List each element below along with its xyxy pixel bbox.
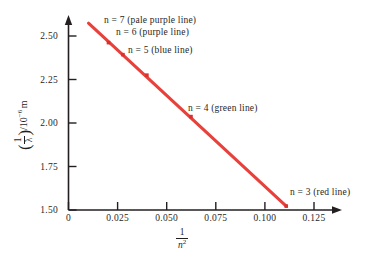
x-tick-label-0050: 0.050 (148, 213, 186, 223)
y-title-fraction: 1λ (14, 136, 35, 145)
y-axis-ticks (69, 36, 77, 210)
y-tick-label-250: 2.50 (22, 31, 58, 41)
annotation-n5: n = 5 (blue line) (128, 45, 193, 55)
y-axis (65, 15, 72, 210)
x-tick-label-0: 0 (55, 213, 83, 223)
y-axis-title: (1λ)/10−6m (14, 100, 35, 150)
y-title-unit: m (18, 100, 29, 108)
x-tick-label-0075: 0.075 (197, 213, 235, 223)
y-tick-label-175: 1.75 (22, 162, 58, 172)
y-title-scale: /10 (18, 117, 29, 130)
x-tick-label-0125: 0.125 (295, 213, 333, 223)
x-axis-title: 1n2 (176, 228, 188, 251)
data-point-n6 (121, 53, 125, 57)
data-point-n4 (189, 115, 193, 119)
data-point-n7 (107, 41, 111, 45)
data-point-n5 (145, 73, 149, 77)
x-title-fraction: 1n2 (176, 228, 188, 251)
y-title-exponent: −6 (16, 110, 24, 117)
annotation-n7: n = 7 (pale purple line) (104, 15, 196, 25)
data-point-n3 (284, 204, 288, 208)
annotation-n6: n = 6 (purple line) (116, 27, 189, 37)
x-axis-ticks (69, 202, 315, 210)
x-tick-label-0025: 0.025 (99, 213, 137, 223)
y-title-open-paren: ( (15, 144, 34, 150)
balmer-series-plot: 2.50 2.25 2.00 1.75 1.50 0 0.025 0.050 0… (0, 0, 378, 264)
annotation-n4: n = 4 (green line) (188, 103, 258, 113)
x-title-denominator-exponent: 2 (183, 238, 187, 246)
annotation-n3: n = 3 (red line) (290, 187, 350, 197)
y-tick-label-225: 2.25 (22, 75, 58, 85)
y-tick-label-150: 1.50 (22, 205, 58, 215)
x-title-denominator: n2 (176, 239, 188, 251)
y-title-close-paren: ) (15, 130, 34, 136)
x-tick-label-0100: 0.100 (246, 213, 284, 223)
y-title-denominator: λ (25, 136, 35, 145)
